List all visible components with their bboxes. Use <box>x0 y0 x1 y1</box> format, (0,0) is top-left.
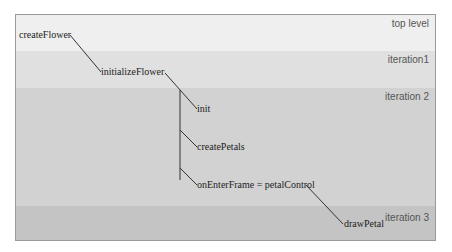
edge-to-onEnterFrame <box>180 168 197 185</box>
edge-to-createPetals <box>180 130 197 147</box>
node-onEnterFrame: onEnterFrame = petalControl <box>197 180 315 190</box>
node-drawPetal: drawPetal <box>344 219 384 229</box>
node-initializeFlower: initializeFlower <box>101 67 164 77</box>
edge-initializeFlower-init <box>165 73 197 109</box>
edge-onEnterFrame-drawPetal <box>306 185 343 224</box>
node-init: init <box>197 104 210 114</box>
node-createPetals: createPetals <box>197 142 245 152</box>
edge-createFlower-initializeFlower <box>70 35 101 72</box>
node-createFlower: createFlower <box>19 30 71 40</box>
